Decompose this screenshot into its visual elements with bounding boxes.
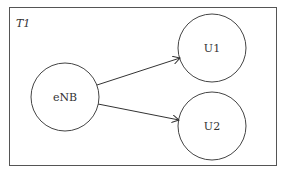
node-u1-label: U1: [204, 42, 220, 55]
frame-label: T1: [16, 17, 30, 30]
diagram-canvas: T1 eNB U1 U2: [0, 0, 286, 176]
frame-box: [10, 8, 277, 166]
node-enb-label: eNB: [53, 91, 77, 104]
node-u2-label: U2: [204, 120, 220, 133]
